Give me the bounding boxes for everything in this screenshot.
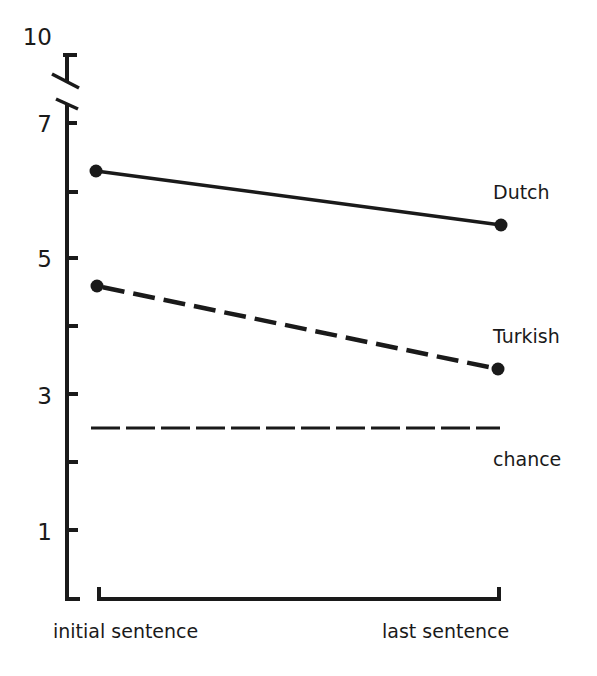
y-axis <box>52 55 80 600</box>
chance-label: chance <box>493 448 561 470</box>
y-tick-label-3: 3 <box>37 383 52 409</box>
turkish-point-last <box>492 363 505 376</box>
series-turkish <box>91 280 505 376</box>
x-axis-bracket <box>99 587 499 599</box>
y-tick-label-1: 1 <box>37 519 52 545</box>
dutch-label: Dutch <box>493 181 550 203</box>
series-dutch <box>90 165 508 232</box>
line-chart: 10 7 5 3 1 Dutch Turkish chance initial … <box>0 0 597 676</box>
x-axis-line <box>99 587 499 599</box>
turkish-point-initial <box>91 280 104 293</box>
x-category-label-last: last sentence <box>382 620 509 642</box>
dutch-line <box>96 171 501 225</box>
chart-svg: 10 7 5 3 1 Dutch Turkish chance initial … <box>0 0 597 676</box>
y-tick-label-5: 5 <box>37 246 52 272</box>
turkish-line <box>97 286 498 369</box>
y-tick-label-7: 7 <box>37 111 52 137</box>
y-tick-label-10: 10 <box>23 24 52 50</box>
x-category-label-initial: initial sentence <box>53 620 198 642</box>
dutch-point-initial <box>90 165 103 178</box>
turkish-label: Turkish <box>492 325 560 347</box>
dutch-point-last <box>495 219 508 232</box>
